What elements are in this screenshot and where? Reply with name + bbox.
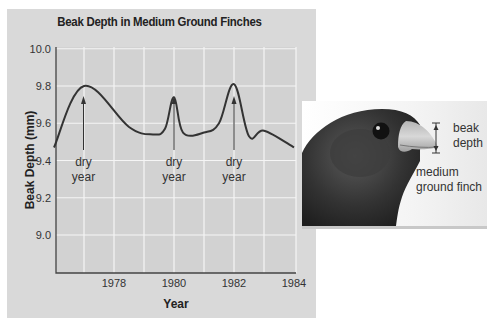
x-axis-title: Year bbox=[163, 297, 189, 311]
species-label: medium ground finch bbox=[416, 165, 482, 195]
finch-head-illustration bbox=[302, 101, 487, 226]
annotation-year: year bbox=[222, 170, 245, 184]
finch-illustration-panel: beak depth medium ground finch bbox=[302, 101, 487, 226]
beak-depth-label: beak depth bbox=[453, 121, 483, 151]
x-tick-labels: 1978198019821984 bbox=[102, 277, 306, 289]
y-tick-label: 9.8 bbox=[36, 80, 51, 92]
annotation-year: year bbox=[72, 170, 95, 184]
beak-label-line1: beak bbox=[453, 121, 483, 136]
species-label-line2: ground finch bbox=[416, 180, 482, 195]
finch-eye bbox=[373, 123, 390, 140]
annotation-year: year bbox=[162, 170, 185, 184]
y-tick-label: 9.4 bbox=[36, 155, 51, 167]
x-tick-label: 1978 bbox=[102, 277, 126, 289]
x-tick-label: 1980 bbox=[162, 277, 186, 289]
beak-label-line2: depth bbox=[453, 136, 483, 151]
annotation-dry: dry bbox=[226, 155, 243, 169]
y-tick-label: 9.2 bbox=[36, 192, 51, 204]
y-axis-title: Beak Depth (mm) bbox=[23, 111, 37, 210]
annotation-dry: dry bbox=[166, 155, 183, 169]
y-tick-label: 9.0 bbox=[36, 229, 51, 241]
y-tick-label: 9.6 bbox=[36, 117, 51, 129]
species-label-line1: medium bbox=[416, 165, 482, 180]
annotation-dry: dry bbox=[75, 155, 92, 169]
x-tick-label: 1982 bbox=[222, 277, 246, 289]
x-tick-label: 1984 bbox=[282, 277, 306, 289]
y-tick-label: 10.0 bbox=[30, 43, 51, 55]
